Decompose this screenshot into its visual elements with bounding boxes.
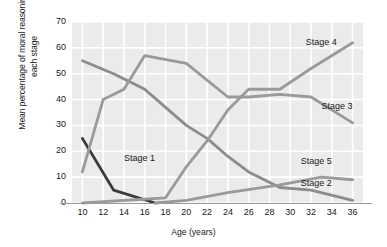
series-label-stage-2: Stage 2 [301,178,332,188]
x-tick-label: 36 [342,207,364,217]
x-axis-title: Age (years) [0,227,387,237]
x-tick-label: 18 [155,207,177,217]
series-label-stage-3: Stage 3 [321,101,352,111]
series-label-stage-5: Stage 5 [301,156,332,166]
x-tick-label: 34 [321,207,343,217]
series-lines [72,22,363,203]
x-tick-label: 12 [92,207,114,217]
y-tick-label: 40 [42,94,66,104]
series-label-stage-4: Stage 4 [306,37,337,47]
moral-reasoning-line-chart: Mean percentage of moral reasoning at ea… [0,0,387,247]
x-tick-label: 28 [258,207,280,217]
y-tick-label: 20 [42,145,66,155]
x-tick-label: 16 [134,207,156,217]
y-tick-label: 10 [42,171,66,181]
x-tick-label: 14 [113,207,135,217]
x-axis-line [60,203,372,204]
y-tick-label: 30 [42,119,66,129]
y-tick-label: 70 [42,16,66,26]
x-tick-label: 22 [196,207,218,217]
y-tick-label: 50 [42,68,66,78]
plot-area [72,22,363,203]
x-tick-label: 20 [175,207,197,217]
y-tick-label: 60 [42,42,66,52]
x-tick-label: 26 [238,207,260,217]
y-axis-title: Mean percentage of moral reasoning at ea… [17,0,40,132]
x-tick-label: 32 [300,207,322,217]
x-tick-label: 24 [217,207,239,217]
series-label-stage-1: Stage 1 [124,153,155,163]
x-tick-label: 30 [279,207,301,217]
x-tick-label: 10 [71,207,93,217]
y-tick-label: 0 [42,197,66,207]
